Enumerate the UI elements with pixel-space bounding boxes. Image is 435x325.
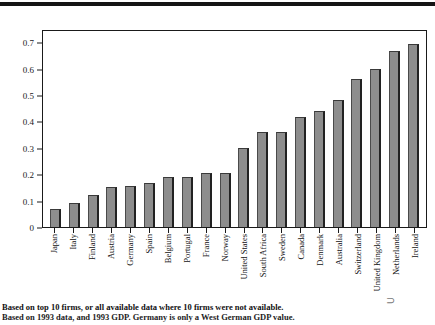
bar <box>370 69 381 227</box>
bar <box>333 100 344 227</box>
x-axis-label-slot: Austria <box>102 234 121 300</box>
x-axis-tick-mark <box>300 228 301 233</box>
x-axis-label: South Africa <box>259 234 268 277</box>
bar-slot <box>310 31 329 227</box>
x-axis-label-slot: Ireland <box>405 234 424 300</box>
bar-slot <box>159 31 178 227</box>
x-axis-tick-mark <box>206 228 207 233</box>
y-axis-tick-label: 0.6 <box>23 65 37 74</box>
bar <box>163 177 174 227</box>
x-axis-label: Australia <box>335 234 344 265</box>
x-axis-tick-mark <box>395 228 396 233</box>
bar-slot <box>140 31 159 227</box>
top-divider-rule <box>0 2 435 6</box>
x-axis-tick-mark <box>149 228 150 233</box>
bar-slot <box>385 31 404 227</box>
bar <box>314 111 325 227</box>
x-axis-tick-mark <box>130 228 131 233</box>
x-axis-tick <box>253 228 272 233</box>
bar <box>276 132 287 227</box>
footnote-line-2: Based on 1993 data, and 1993 GDP. German… <box>2 313 432 323</box>
x-axis-label: Finland <box>88 234 97 260</box>
bar-slot <box>329 31 348 227</box>
x-axis-label: Belgium <box>164 234 173 263</box>
x-axis-tick <box>45 228 64 233</box>
x-axis-label-slot: Japan <box>45 234 64 300</box>
bar <box>69 203 80 227</box>
x-axis-label: Norway <box>221 234 230 261</box>
x-axis-label-slot: Portugal <box>178 234 197 300</box>
x-axis-label-slot: Netherlands <box>386 234 405 300</box>
bar-slot <box>197 31 216 227</box>
x-axis-tick-mark <box>281 228 282 233</box>
x-axis-tick <box>102 228 121 233</box>
bar <box>182 177 193 227</box>
x-axis-labels: JapanItalyFinlandAustriaGermanySpainBelg… <box>42 234 427 300</box>
x-axis-label: Austria <box>107 234 116 259</box>
bar-slot <box>65 31 84 227</box>
x-axis-label: Canada <box>297 234 306 260</box>
x-axis-label-slot: France <box>197 234 216 300</box>
x-axis-tick <box>121 228 140 233</box>
x-axis-tick-mark <box>319 228 320 233</box>
y-axis-tick-label: 0.5 <box>23 92 37 101</box>
bar-slot <box>216 31 235 227</box>
x-axis-label: Denmark <box>316 234 325 266</box>
bar <box>88 195 99 227</box>
bar-slot <box>348 31 367 227</box>
bar-slot <box>234 31 253 227</box>
bar <box>201 173 212 227</box>
y-axis-tick: 0.4 <box>23 118 42 127</box>
bar <box>50 209 61 227</box>
bar-slot <box>253 31 272 227</box>
x-axis-tick-mark <box>187 228 188 233</box>
bar-slot <box>291 31 310 227</box>
y-axis-tick: 0.2 <box>23 171 42 180</box>
x-axis-tick-mark <box>54 228 55 233</box>
x-axis-tick-mark <box>168 228 169 233</box>
x-axis-tick <box>159 228 178 233</box>
x-axis-label-slot: South Africa <box>253 234 272 300</box>
x-axis-tick <box>178 228 197 233</box>
x-axis-label: Switzerland <box>353 234 362 275</box>
x-axis-label-slot: Finland <box>83 234 102 300</box>
bar-series <box>43 31 426 227</box>
x-axis-ticks <box>42 228 427 233</box>
y-axis-tick-label: 0.2 <box>23 171 37 180</box>
x-axis-label-slot: Germany <box>121 234 140 300</box>
bar <box>125 186 136 227</box>
x-axis-tick-mark <box>111 228 112 233</box>
y-axis-tick: 0.5 <box>23 92 42 101</box>
x-axis-tick <box>329 228 348 233</box>
x-axis-tick <box>405 228 424 233</box>
y-axis-tick-label: 0.3 <box>23 144 37 153</box>
x-axis-tick <box>291 228 310 233</box>
y-axis: 00.10.20.30.40.50.60.7 <box>0 30 42 229</box>
bar <box>220 173 231 227</box>
x-axis-label: Ireland <box>410 234 419 258</box>
x-axis-tick-mark <box>262 228 263 233</box>
y-axis-tick-label: 0.1 <box>23 197 37 206</box>
bar-chart-figure: 00.10.20.30.40.50.60.7 JapanItalyFinland… <box>0 10 435 300</box>
x-axis-label-slot: Switzerland <box>348 234 367 300</box>
y-axis-tick: 0 <box>30 224 43 233</box>
y-axis-tick-label: 0.7 <box>23 39 37 48</box>
x-axis-label: Sweden <box>278 234 287 261</box>
bar <box>257 132 268 227</box>
x-axis-tick <box>386 228 405 233</box>
x-axis-label: United Kingdom <box>372 234 381 291</box>
x-axis-tick-mark <box>244 228 245 233</box>
bar-slot <box>178 31 197 227</box>
bar <box>238 148 249 227</box>
x-axis-tick <box>348 228 367 233</box>
x-axis-tick <box>367 228 386 233</box>
bar <box>351 79 362 227</box>
bar <box>408 44 419 227</box>
x-axis-tick-mark <box>73 228 74 233</box>
bar-slot <box>366 31 385 227</box>
x-axis-tick-mark <box>225 228 226 233</box>
x-axis-label: Japan <box>50 234 59 253</box>
bar <box>389 51 400 227</box>
x-axis-label: Germany <box>126 234 135 266</box>
x-axis-label: France <box>202 234 211 257</box>
